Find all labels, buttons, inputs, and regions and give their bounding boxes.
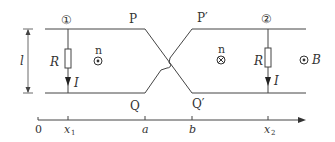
tick-label-a: a — [142, 123, 149, 136]
tick-label-0: 0 — [35, 123, 42, 136]
current-arrow-2 — [265, 77, 271, 86]
resistor-2-label: R — [253, 54, 263, 68]
x-axis-arrow — [298, 117, 306, 123]
tick-label-b: b — [189, 123, 196, 136]
tick-label-x1: x — [64, 123, 71, 136]
current-2-label: I — [273, 74, 279, 88]
resistor-1 — [65, 49, 71, 68]
position-2-marker: ② — [261, 12, 272, 26]
resistor-2 — [265, 48, 271, 67]
tick-label-x2: x — [264, 123, 271, 136]
current-arrow-1 — [65, 77, 71, 86]
current-1-label: I — [73, 76, 79, 90]
field-label: B — [311, 53, 321, 67]
normal-left-label: n — [95, 44, 102, 57]
normal-right-label: n — [218, 43, 225, 56]
tick-label-x2-sub: 2 — [271, 129, 275, 137]
twisted-rail-diagram: l R I ① R I ② P P′ Q Q′ n n B 0 x 1 a — [0, 0, 335, 142]
label-Q: Q — [130, 99, 140, 113]
label-Q-prime: Q′ — [192, 97, 205, 111]
label-P-prime: P′ — [197, 11, 208, 25]
out-of-page-icon — [94, 57, 102, 65]
dimension-arrow-down — [26, 87, 31, 93]
tick-label-x1-sub: 1 — [71, 129, 75, 137]
label-P: P — [129, 12, 137, 26]
field-out-of-page-icon — [300, 56, 308, 64]
width-label: l — [20, 54, 24, 68]
position-1-marker: ① — [61, 13, 72, 27]
dimension-arrow-up — [26, 29, 31, 35]
into-page-icon — [217, 56, 225, 64]
resistor-1-label: R — [49, 55, 59, 69]
